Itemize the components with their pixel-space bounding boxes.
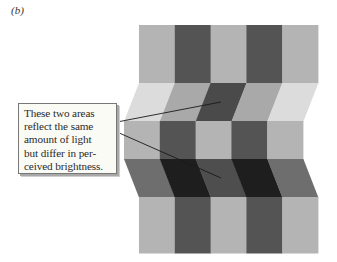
stripe-cell-light	[139, 25, 175, 83]
stripe-cell-dark	[231, 121, 267, 159]
lower-slanted-band	[124, 159, 318, 197]
stripe-cell-light	[267, 121, 303, 159]
stripe-cell-dark	[175, 25, 211, 83]
callout-text: These two areas reflect the same amount …	[24, 107, 113, 173]
upper-slanted-band	[124, 83, 318, 121]
stripe-cell-light	[139, 197, 175, 253]
stripe-cell-light	[282, 25, 318, 83]
top-flat-band	[139, 25, 318, 83]
stripe-cell-light	[282, 197, 318, 253]
stripe-cell-dark	[246, 25, 282, 83]
stripe-cell-dark	[175, 197, 211, 253]
stripe-bands	[124, 25, 318, 253]
callout-box: These two areas reflect the same amount …	[18, 103, 117, 174]
stripe-cell-light	[211, 25, 247, 83]
middle-flat-band	[124, 121, 303, 159]
stripe-cell-light	[124, 121, 160, 159]
stripe-cell-light	[196, 121, 232, 159]
stripe-cell-light	[211, 197, 247, 253]
bottom-flat-band	[139, 197, 318, 253]
stripe-cell-dark	[246, 197, 282, 253]
